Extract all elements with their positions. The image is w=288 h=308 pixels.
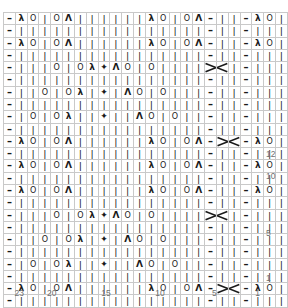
- cable-cross-icon: [217, 62, 228, 73]
- cell-purl-stitch: –: [240, 37, 252, 49]
- knit-stitch-glyph: |: [99, 50, 110, 61]
- cell-knit-stitch: |: [264, 111, 276, 123]
- cell-yarn-over: O: [264, 184, 276, 196]
- cell-purl-stitch: –: [205, 135, 217, 147]
- cell-knit-stitch: |: [216, 295, 228, 307]
- cell-yarn-over: O: [169, 111, 181, 123]
- cell-purl-stitch: –: [4, 49, 16, 61]
- yarn-over-glyph: O: [158, 185, 169, 196]
- cell-knit-stitch: |: [228, 111, 240, 123]
- knit-stitch-glyph: |: [170, 87, 181, 98]
- knit-stitch-glyph: |: [122, 111, 133, 122]
- cell-cable-cross: [205, 209, 217, 221]
- cell-knit-stitch: |: [252, 234, 264, 246]
- cell-knit-stitch: |: [252, 221, 264, 233]
- cell-knit-stitch: |: [39, 160, 51, 172]
- yarn-over-glyph: O: [122, 62, 133, 73]
- knit-stitch-glyph: |: [63, 271, 74, 282]
- knit-stitch-glyph: |: [75, 271, 86, 282]
- knit-stitch-glyph: |: [229, 124, 240, 135]
- knit-stitch-glyph: |: [63, 124, 74, 135]
- knit-stitch-glyph: |: [110, 136, 121, 147]
- yarn-over-glyph: O: [63, 87, 74, 98]
- knit-stitch-glyph: |: [99, 38, 110, 49]
- knit-stitch-glyph: |: [75, 148, 86, 159]
- knit-stitch-glyph: |: [39, 197, 50, 208]
- knit-stitch-glyph: |: [252, 62, 263, 73]
- knit-stitch-glyph: |: [16, 111, 27, 122]
- yarn-over-glyph: O: [51, 210, 62, 221]
- cell-yarn-over: O: [74, 209, 86, 221]
- purl-stitch-glyph: –: [4, 160, 15, 171]
- knit-stitch-glyph: |: [170, 74, 181, 85]
- chart-row: –|O|Oλ||✦||ɅO|O||–||–|||: [4, 258, 288, 270]
- cell-knit-stitch: |: [15, 258, 27, 270]
- knit-stitch-glyph: |: [16, 234, 27, 245]
- knit-stitch-glyph: |: [181, 246, 192, 257]
- knit-stitch-glyph: |: [87, 124, 98, 135]
- cell-yarn-over: O: [181, 37, 193, 49]
- cell-knit-stitch: |: [122, 135, 134, 147]
- cell-knit-stitch: |: [276, 283, 288, 295]
- knit-stitch-glyph: |: [75, 160, 86, 171]
- knit-stitch-glyph: |: [276, 38, 287, 49]
- knit-stitch-glyph: |: [170, 25, 181, 36]
- knit-stitch-glyph: |: [75, 99, 86, 110]
- cell-knit-stitch: |: [169, 197, 181, 209]
- knit-stitch-glyph: |: [110, 185, 121, 196]
- yarn-over-glyph: O: [264, 38, 275, 49]
- knit-stitch-glyph: |: [87, 259, 98, 270]
- cell-knit-stitch: |: [169, 246, 181, 258]
- cell-knit-stitch: |: [276, 74, 288, 86]
- cell-knit-stitch: |: [122, 283, 134, 295]
- knit-stitch-glyph: |: [87, 148, 98, 159]
- purl-stitch-glyph: –: [205, 222, 216, 233]
- cell-knit-stitch: |: [51, 172, 63, 184]
- cell-purl-stitch: –: [4, 234, 16, 246]
- cell-purl-stitch: –: [4, 74, 16, 86]
- cell-knit-stitch: |: [122, 184, 134, 196]
- cell-knit-stitch: |: [228, 37, 240, 49]
- knit-stitch-glyph: |: [63, 99, 74, 110]
- knit-stitch-glyph: |: [75, 74, 86, 85]
- cell-knit-stitch: |: [122, 74, 134, 86]
- cell-knit-stitch: |: [228, 62, 240, 74]
- cell-knit-stitch: |: [134, 197, 146, 209]
- cell-knit-stitch: |: [74, 160, 86, 172]
- chart-row: –|||O|Oλ✦ɅO|O|||||–|||: [4, 209, 288, 221]
- knit-stitch-glyph: |: [170, 197, 181, 208]
- cell-knit-stitch: |: [157, 209, 169, 221]
- purl-stitch-glyph: –: [4, 234, 15, 245]
- cell-knit-stitch: |: [98, 25, 110, 37]
- knit-stitch-glyph: |: [75, 283, 86, 294]
- knit-stitch-glyph: |: [75, 222, 86, 233]
- knit-stitch-glyph: |: [28, 210, 39, 221]
- knit-stitch-glyph: |: [75, 124, 86, 135]
- cell-knit-stitch: |: [27, 25, 39, 37]
- cell-purl-stitch: –: [205, 258, 217, 270]
- knit-stitch-glyph: |: [158, 222, 169, 233]
- knit-stitch-glyph: |: [181, 148, 192, 159]
- cell-knit-stitch: |: [122, 295, 134, 307]
- knit-stitch-glyph: |: [229, 234, 240, 245]
- knit-stitch-glyph: |: [193, 259, 204, 270]
- cell-knit-stitch: |: [193, 74, 205, 86]
- cell-knit-stitch: |: [193, 86, 205, 98]
- cell-knit-stitch: |: [157, 49, 169, 61]
- cell-knit-stitch: |: [264, 197, 276, 209]
- cell-knit-stitch: |: [181, 209, 193, 221]
- cell-knit-stitch: |: [74, 270, 86, 282]
- knit-stitch-glyph: |: [75, 38, 86, 49]
- cell-knit-stitch: |: [264, 98, 276, 110]
- knit-stitch-glyph: |: [39, 173, 50, 184]
- purl-stitch-glyph: –: [241, 271, 252, 282]
- knit-stitch-glyph: |: [193, 124, 204, 135]
- knit-stitch-glyph: |: [16, 259, 27, 270]
- cell-knit-stitch: |: [276, 37, 288, 49]
- cell-yarn-over: O: [27, 283, 39, 295]
- cell-purl-stitch: –: [205, 123, 217, 135]
- cell-knit-stitch: |: [63, 49, 75, 61]
- cell-knit-stitch: |: [193, 148, 205, 160]
- cell-knit-stitch: |: [157, 221, 169, 233]
- knit-stitch-glyph: |: [158, 74, 169, 85]
